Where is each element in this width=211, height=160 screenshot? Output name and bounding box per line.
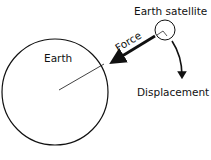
displacement-arrow [172, 41, 182, 76]
displacement-label: Displacement [137, 86, 209, 98]
earth-label: Earth [44, 52, 72, 64]
radius-line [59, 64, 104, 90]
force-label: Force [113, 29, 144, 54]
satellite-label: Earth satellite [134, 5, 207, 17]
satellite-circle [155, 20, 175, 40]
work-diagram: Earth Earth satellite Force Displacement [0, 0, 211, 160]
